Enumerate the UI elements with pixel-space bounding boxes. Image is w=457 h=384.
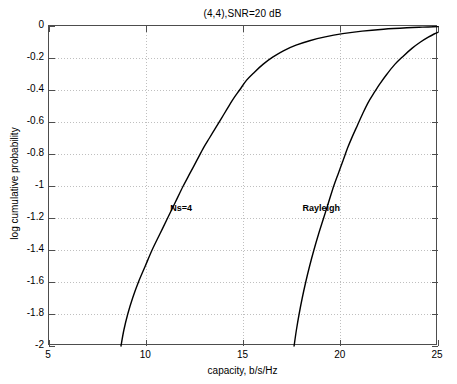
x-tick-label: 20 — [334, 350, 345, 360]
figure-canvas: (4,4),SNR=20 dB 0-0.2-0.4-0.6-0.8-1-1.2-… — [0, 0, 457, 384]
curve-ns-4 — [121, 27, 438, 346]
y-tick-label: -2 — [2, 340, 44, 350]
y-tick-label: -0.2 — [2, 52, 44, 62]
plot-area: Ns=4Rayleigh — [48, 25, 437, 345]
x-axis-tick-labels: 510152025 — [0, 350, 457, 364]
y-tick-label: -1.8 — [2, 308, 44, 318]
curve-layer — [49, 26, 438, 346]
x-tick-label: 25 — [431, 350, 442, 360]
y-axis-tick-labels: 0-0.2-0.4-0.6-0.8-1-1.2-1.4-1.6-1.8-2 — [0, 0, 44, 384]
x-axis-label: capacity, b/s/Hz — [48, 365, 437, 376]
x-tick-label: 15 — [237, 350, 248, 360]
curve-label-ns-4: Ns=4 — [170, 203, 192, 213]
y-tick-label: 0 — [2, 20, 44, 30]
y-tick-label: -1.6 — [2, 276, 44, 286]
x-tick-label: 5 — [45, 350, 51, 360]
curve-label-rayleigh: Rayleigh — [303, 203, 341, 213]
y-tick-label: -0.4 — [2, 84, 44, 94]
x-tick-label: 10 — [140, 350, 151, 360]
y-axis-label: log cumulative probability — [9, 104, 20, 264]
chart-title: (4,4),SNR=20 dB — [48, 8, 437, 20]
curve-rayleigh — [294, 32, 438, 346]
